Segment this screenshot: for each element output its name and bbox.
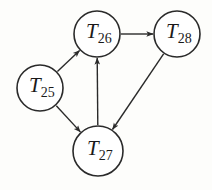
edge-t27-to-t26 (97, 58, 98, 125)
node-t25: T25 (17, 65, 63, 111)
edge-t25-to-t27 (56, 106, 80, 132)
arrow-icon (97, 58, 98, 125)
node-label-subscript: 27 (99, 148, 113, 163)
arrow-icon (57, 51, 79, 72)
arrow-icon (56, 106, 80, 132)
nodes-layer: T25 T26 T27 T28 (17, 11, 200, 176)
node-label-subscript: 25 (41, 85, 55, 100)
node-label-subscript: 28 (178, 31, 192, 46)
node-t28: T28 (154, 11, 200, 57)
node-t26: T26 (74, 11, 120, 57)
node-t27: T27 (73, 126, 123, 176)
arrow-icon (113, 54, 164, 130)
node-label-subscript: 26 (98, 31, 112, 46)
edge-t28-to-t27 (113, 54, 164, 130)
precedence-graph: T25 T26 T27 T28 (0, 0, 212, 190)
edge-t25-to-t26 (57, 51, 79, 72)
